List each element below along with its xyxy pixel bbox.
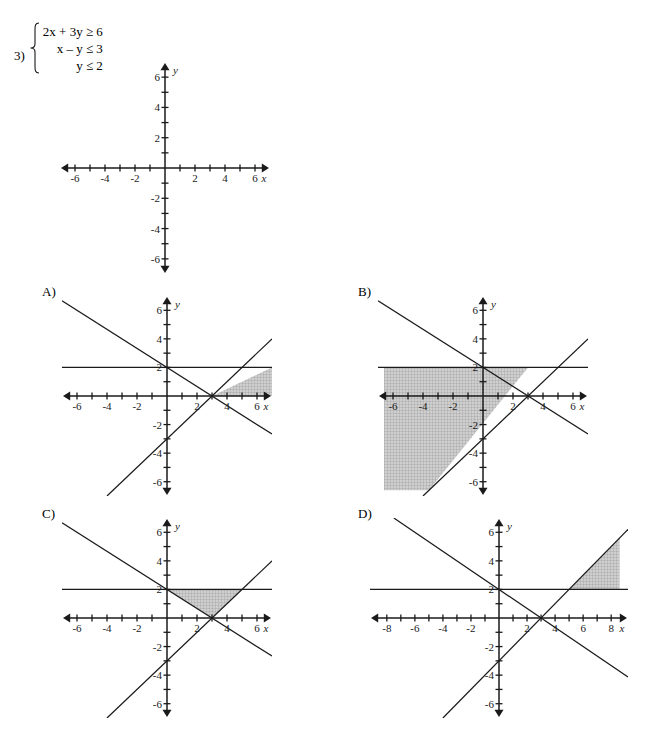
problem-graph: -6-4-2246-6-4-2246xy	[60, 62, 270, 274]
option-d-panel[interactable]: D) -8-6-4-22468-6-4-2246xy	[358, 506, 628, 718]
x-tick-label: 8	[608, 622, 614, 634]
y-tick-label: 4	[473, 333, 479, 345]
region-left-below	[384, 367, 528, 490]
x-tick-label: 4	[552, 622, 558, 634]
y-tick-label: -4	[469, 447, 479, 459]
x-axis-label: x	[263, 622, 269, 634]
y-tick-label: -2	[151, 192, 160, 204]
x-tick-label: -2	[132, 400, 141, 412]
x-tick-label: -4	[418, 400, 428, 412]
x-tick-label: -4	[100, 172, 110, 184]
boundary-line	[394, 518, 628, 677]
y-tick-label: -4	[151, 223, 161, 235]
option-b-graph[interactable]: -6-4-2246-6-4-2246xy	[378, 296, 588, 496]
x-tick-label: 2	[524, 622, 530, 634]
x-tick-label: 6	[252, 172, 258, 184]
x-tick-label: -8	[382, 622, 392, 634]
y-axis-label: y	[174, 298, 180, 310]
y-tick-label: 4	[157, 333, 163, 345]
problem-number: 3)	[14, 32, 25, 64]
y-tick-label: 6	[157, 304, 163, 316]
x-tick-label: -4	[102, 400, 112, 412]
x-tick-label: 6	[570, 400, 576, 412]
y-tick-label: 4	[157, 555, 163, 567]
x-tick-label: 2	[192, 172, 198, 184]
option-a-graph[interactable]: -6-4-2246-6-4-2246xy	[62, 296, 272, 496]
option-b-panel[interactable]: B) -6-4-2246-6-4-2246xy	[358, 284, 598, 496]
x-tick-label: -6	[72, 400, 82, 412]
x-tick-label: -6	[72, 622, 82, 634]
y-tick-label: 6	[155, 71, 161, 83]
problem-graph-panel: -6-4-2246-6-4-2246xy	[60, 62, 270, 274]
y-axis-label: y	[172, 64, 178, 76]
y-axis-label: y	[506, 520, 512, 532]
y-tick-label: -4	[485, 669, 495, 681]
y-axis-label: y	[490, 298, 496, 310]
x-tick-label: 4	[540, 400, 546, 412]
x-tick-label: -4	[438, 622, 448, 634]
y-tick-label: -6	[469, 476, 479, 488]
y-tick-label: -2	[153, 641, 162, 653]
y-tick-label: 6	[489, 526, 495, 538]
inequality-2: x – y ≤ 3	[57, 40, 103, 57]
y-tick-label: -6	[485, 698, 495, 710]
x-tick-label: -4	[102, 622, 112, 634]
y-tick-label: 2	[157, 583, 163, 595]
y-tick-label: 2	[473, 361, 479, 373]
y-tick-label: 2	[155, 132, 161, 144]
x-tick-label: 2	[194, 622, 200, 634]
x-tick-label: -6	[70, 172, 80, 184]
y-tick-label: -6	[153, 698, 163, 710]
boundary-line	[107, 561, 272, 718]
x-tick-label: -6	[388, 400, 398, 412]
y-tick-label: 4	[155, 101, 161, 113]
y-tick-label: -6	[151, 253, 161, 265]
left-curly-brace-icon	[29, 22, 41, 74]
option-label-a: A)	[42, 284, 56, 300]
x-tick-label: 2	[194, 400, 200, 412]
y-axis-label: y	[174, 520, 180, 532]
x-tick-label: -2	[466, 622, 475, 634]
x-axis-label: x	[263, 400, 269, 412]
x-tick-label: 6	[254, 622, 260, 634]
x-tick-label: -6	[410, 622, 420, 634]
y-tick-label: 4	[489, 555, 495, 567]
option-d-graph[interactable]: -8-6-4-22468-6-4-2246xy	[370, 518, 628, 718]
option-label-b: B)	[358, 284, 371, 300]
y-tick-label: 2	[489, 583, 495, 595]
x-tick-label: -2	[448, 400, 457, 412]
option-a-panel[interactable]: A) -6-4-2246-6-4-2246xy	[42, 284, 282, 496]
x-tick-label: 6	[580, 622, 586, 634]
y-tick-label: -6	[153, 476, 163, 488]
y-tick-label: -4	[153, 447, 163, 459]
y-tick-label: -4	[153, 669, 163, 681]
y-tick-label: 2	[157, 361, 163, 373]
boundary-line	[107, 339, 272, 496]
x-tick-label: 2	[510, 400, 516, 412]
option-c-panel[interactable]: C) -6-4-2246-6-4-2246xy	[42, 506, 282, 718]
x-tick-label: 4	[224, 622, 230, 634]
option-label-c: C)	[42, 506, 55, 522]
y-tick-label: 6	[473, 304, 479, 316]
x-axis-label: x	[261, 172, 267, 184]
option-c-graph[interactable]: -6-4-2246-6-4-2246xy	[62, 518, 272, 718]
x-tick-label: 6	[254, 400, 260, 412]
y-tick-label: -2	[469, 419, 478, 431]
x-tick-label: 4	[224, 400, 230, 412]
x-tick-label: 4	[222, 172, 228, 184]
x-axis-label: x	[579, 400, 585, 412]
region-right-of-intersection	[212, 367, 272, 396]
y-tick-label: -2	[485, 641, 494, 653]
y-tick-label: 6	[157, 526, 163, 538]
inequality-1: 2x + 3y ≥ 6	[43, 23, 103, 40]
x-axis-label: x	[619, 622, 625, 634]
x-tick-label: -2	[132, 622, 141, 634]
x-tick-label: -2	[130, 172, 139, 184]
y-tick-label: -2	[153, 419, 162, 431]
